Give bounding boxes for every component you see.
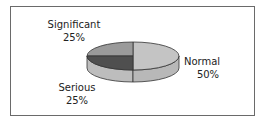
label-significant: Significant 25% [45, 18, 103, 44]
pie-chart-3d [0, 0, 265, 125]
label-serious-pct: 25% [55, 94, 99, 107]
label-normal: Normal 50% [180, 55, 224, 81]
label-significant-pct: 25% [45, 31, 103, 44]
label-serious-name: Serious [55, 81, 99, 94]
slice-significant [87, 42, 133, 56]
label-normal-pct: 50% [180, 68, 224, 81]
label-normal-name: Normal [180, 55, 224, 68]
label-significant-name: Significant [45, 18, 103, 31]
label-serious: Serious 25% [55, 81, 99, 107]
pie-top [87, 42, 179, 70]
